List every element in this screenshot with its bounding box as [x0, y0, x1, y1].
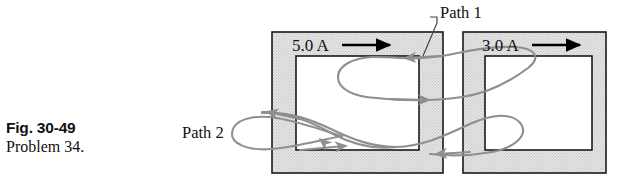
right-conductor-hole-edge [485, 56, 592, 150]
path-1-left-lobe [338, 57, 376, 98]
current-label-right: 3.0 A [482, 36, 520, 55]
path-2-label: Path 2 [182, 123, 224, 142]
path-1-arrow-right-segment [390, 99, 428, 100]
path-1-label: Path 1 [440, 3, 482, 22]
current-label-left: 5.0 A [292, 36, 330, 55]
left-conductor-hole-edge [296, 56, 419, 150]
physics-diagram: Path 1 Path 2 5.0 A 3.0 A [0, 0, 635, 188]
figure-container: Fig. 30-49 Problem 34. [0, 0, 635, 188]
